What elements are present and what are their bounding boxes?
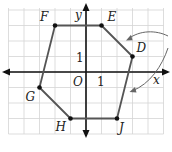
y-axis-label: y [74,8,82,22]
vertex-label-G: G [26,90,36,104]
origin-label: O [73,75,83,89]
y-tick-label-1: 1 [76,51,84,65]
vertex-label-F: F [39,10,49,24]
vertex-point-E [99,23,104,28]
vertex-point-G [37,85,42,90]
y-axis-up-arrow-icon [83,3,90,11]
x-tick-label-1: 1 [97,75,105,89]
vertex-label-E: E [107,10,117,24]
vertex-label-H: H [55,120,67,134]
vertex-point-H [68,116,73,121]
x-axis-label: x [153,73,160,87]
x-axis-right-arrow-icon [162,69,170,76]
vertex-point-F [53,23,58,28]
vertex-label-D: D [136,41,147,55]
x-axis-left-arrow-icon [2,69,10,76]
coordinate-plane-figure: x y O 1 1 DEFGHJ [0,0,172,152]
vertex-point-D [130,54,135,59]
curved-arrow-upper-head-icon [126,35,133,41]
